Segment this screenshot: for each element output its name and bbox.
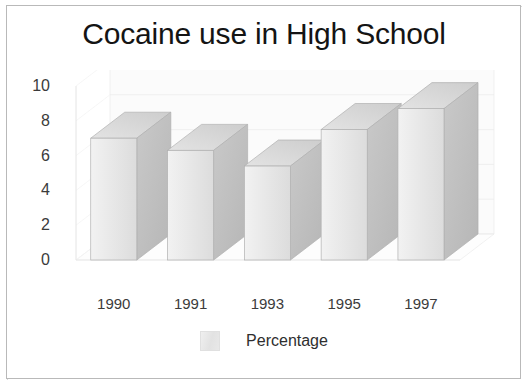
bar-1990 [91,112,171,260]
bar-front-face-1995 [321,130,367,261]
plot-area [60,70,500,285]
plot-svg [60,70,500,285]
y-tick-label-2: 2 [16,217,50,233]
gridline-depth-10 [76,70,110,86]
legend-swatch-percentage [200,331,220,351]
y-axis-labels: 1086420 [12,70,50,285]
y-tick-label-6: 6 [16,148,50,164]
x-tick-label-1995: 1995 [309,295,379,313]
bar-1991 [168,124,248,260]
bar-side-face-1997 [444,83,478,260]
chart-figure: Cocaine use in High School 1086420 19901… [0,0,528,386]
bar-front-face-1993 [244,166,290,260]
bar-1997 [398,83,478,260]
bar-1993 [244,140,324,260]
y-tick-label-10: 10 [16,78,50,94]
bar-1995 [321,104,401,261]
x-tick-label-1993: 1993 [232,295,302,313]
y-tick-label-8: 8 [16,113,50,129]
bar-side-face-1995 [367,104,401,261]
x-axis-labels: 19901991199319951997 [60,295,500,317]
legend-label-percentage: Percentage [246,332,328,350]
gridline-depth-8 [76,95,110,121]
x-tick-label-1997: 1997 [386,295,456,313]
x-tick-label-1990: 1990 [79,295,149,313]
bar-front-face-1990 [91,138,137,260]
chart-legend: Percentage [0,331,528,351]
bar-front-face-1991 [168,150,214,260]
y-tick-label-0: 0 [16,252,50,268]
x-tick-label-1991: 1991 [156,295,226,313]
bar-side-face-1990 [137,112,171,260]
bar-front-face-1997 [398,109,444,260]
chart-title: Cocaine use in High School [0,17,528,51]
y-tick-label-4: 4 [16,182,50,198]
